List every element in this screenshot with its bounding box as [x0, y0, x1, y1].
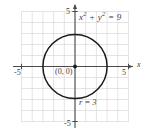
origin-point-marker	[73, 65, 77, 69]
equation-label: x2 + y2 = 9	[79, 13, 121, 22]
axes	[13, 5, 133, 128]
origin-label: (0, 0)	[55, 68, 72, 76]
equation-tail: = 9	[105, 12, 121, 22]
equation-middle: + y	[87, 12, 102, 22]
x-tick-label-positive: 5	[122, 69, 126, 77]
graph-figure: x2 + y2 = 9 (0, 0) r = 3 x -5 5 5 -5	[0, 0, 150, 136]
coordinate-plane-svg	[0, 0, 150, 136]
x-axis-label: x	[137, 61, 141, 69]
radius-label: r = 3	[79, 98, 97, 107]
y-tick-label-negative: -5	[64, 120, 71, 128]
x-tick-label-negative: -5	[14, 69, 21, 77]
y-tick-label-positive: 5	[66, 8, 70, 16]
y-axis-arrow-up	[73, 4, 77, 9]
